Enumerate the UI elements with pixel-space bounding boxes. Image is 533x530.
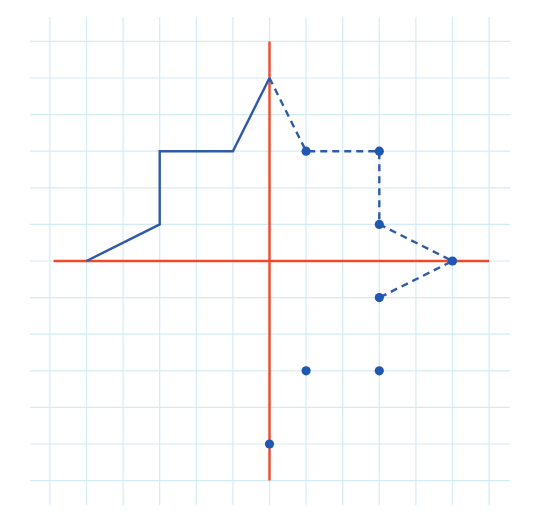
vertex-point — [375, 293, 384, 302]
isolated-point — [265, 439, 274, 448]
isolated-point — [302, 366, 311, 375]
vertex-point — [375, 147, 384, 156]
axes — [54, 41, 490, 480]
solid-figure-outline — [87, 78, 270, 261]
grid-plot — [0, 0, 533, 530]
coordinate-grid-diagram — [0, 0, 533, 530]
vertex-point — [448, 256, 457, 265]
isolated-point — [375, 366, 384, 375]
vertex-point — [302, 147, 311, 156]
vertex-point — [375, 220, 384, 229]
solid-polyline — [87, 78, 270, 261]
